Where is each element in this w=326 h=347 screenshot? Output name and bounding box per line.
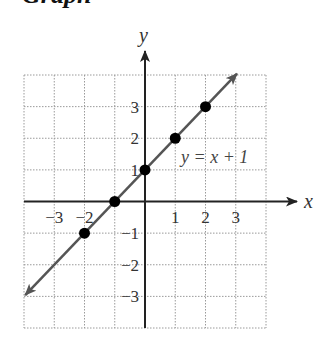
y-tick-label: −2 bbox=[121, 256, 139, 275]
coordinate-plane: −3−2123321−1−2−3 x y y = x + 1 bbox=[0, 0, 326, 347]
x-tick-label: 1 bbox=[171, 208, 180, 227]
data-point bbox=[79, 228, 90, 239]
y-tick-label: 2 bbox=[131, 129, 140, 148]
y-tick-label: 3 bbox=[131, 98, 140, 117]
equation-label: y = x + 1 bbox=[179, 147, 248, 167]
x-tick-label: 2 bbox=[201, 208, 210, 227]
axes bbox=[24, 51, 297, 328]
x-axis-label: x bbox=[303, 190, 313, 212]
x-tick-label: 3 bbox=[232, 208, 241, 227]
data-point bbox=[109, 196, 120, 207]
y-tick-label: 1 bbox=[131, 161, 140, 180]
y-tick-label: −1 bbox=[121, 224, 139, 243]
x-tick-label: −3 bbox=[45, 208, 63, 227]
y-tick-label: −3 bbox=[121, 287, 139, 306]
x-tick-label: −2 bbox=[75, 208, 93, 227]
data-point bbox=[140, 164, 151, 175]
data-point bbox=[170, 133, 181, 144]
data-point bbox=[200, 101, 211, 112]
y-axis-label: y bbox=[137, 24, 148, 47]
